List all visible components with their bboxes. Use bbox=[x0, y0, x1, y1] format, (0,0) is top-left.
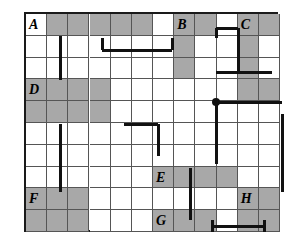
grid-cell bbox=[132, 101, 153, 123]
grid-cell bbox=[238, 58, 259, 80]
junction-dot bbox=[212, 98, 220, 106]
route-b-zigzag-segment bbox=[216, 27, 238, 30]
route-b-zigzag-segment bbox=[215, 28, 218, 38]
node-label-g: G bbox=[156, 214, 166, 228]
grid-cell bbox=[259, 123, 280, 145]
grid-cell bbox=[259, 14, 280, 36]
grid-cell bbox=[174, 167, 195, 189]
grid-cell bbox=[111, 36, 132, 58]
grid-cell bbox=[68, 101, 89, 123]
grid-cell bbox=[153, 14, 174, 36]
grid-cell bbox=[132, 123, 153, 145]
grid-cell bbox=[238, 101, 259, 123]
grid-cell bbox=[68, 123, 89, 145]
grid-cell bbox=[90, 14, 111, 36]
node-label-h: H bbox=[241, 192, 252, 206]
grid-cell bbox=[68, 210, 89, 232]
grid-cell bbox=[195, 36, 216, 58]
grid-cell bbox=[153, 58, 174, 80]
grid-cell bbox=[111, 188, 132, 210]
grid-routing-diagram: ABCDEFGH bbox=[0, 0, 295, 249]
route-b-zigzag-segment bbox=[216, 71, 272, 74]
grid-cell bbox=[111, 123, 132, 145]
grid-cell bbox=[259, 167, 280, 189]
route-left-vertical-upper-segment bbox=[59, 36, 62, 80]
route-g-horizontal-segment bbox=[263, 220, 266, 232]
grid-cell bbox=[90, 167, 111, 189]
node-label-e: E bbox=[156, 171, 165, 185]
grid-cell bbox=[111, 79, 132, 101]
node-label-f: F bbox=[29, 192, 38, 206]
grid-cell bbox=[111, 101, 132, 123]
grid-cell bbox=[238, 167, 259, 189]
grid-cell bbox=[217, 36, 238, 58]
node-label-d: D bbox=[29, 83, 39, 97]
grid-cell bbox=[195, 188, 216, 210]
grid-cell bbox=[153, 79, 174, 101]
grid-cell bbox=[111, 58, 132, 80]
route-g-horizontal-segment bbox=[211, 220, 214, 232]
grid-board: ABCDEFGH bbox=[24, 12, 278, 232]
grid-cell bbox=[26, 101, 47, 123]
grid-cell bbox=[259, 36, 280, 58]
grid-cell bbox=[217, 210, 238, 232]
grid-cell bbox=[68, 167, 89, 189]
grid-cell bbox=[174, 36, 195, 58]
grid-cell bbox=[259, 101, 280, 123]
grid-cell bbox=[217, 145, 238, 167]
grid-cell bbox=[195, 123, 216, 145]
route-top-left-hook-segment bbox=[102, 49, 172, 52]
grid-cell bbox=[195, 167, 216, 189]
route-g-horizontal-segment bbox=[212, 225, 264, 228]
grid-cell bbox=[217, 101, 238, 123]
grid-cell bbox=[26, 123, 47, 145]
route-right-vertical-segment bbox=[281, 114, 284, 192]
grid-cell bbox=[68, 14, 89, 36]
grid-cell bbox=[132, 188, 153, 210]
grid-cell bbox=[217, 123, 238, 145]
grid-cell bbox=[174, 58, 195, 80]
grid-cell bbox=[47, 14, 68, 36]
grid-cell bbox=[238, 210, 259, 232]
grid-cell bbox=[259, 58, 280, 80]
grid-cell bbox=[217, 167, 238, 189]
grid-cell bbox=[111, 14, 132, 36]
grid-cell bbox=[217, 79, 238, 101]
grid-cell bbox=[174, 123, 195, 145]
node-label-a: A bbox=[29, 18, 38, 32]
grid-cell bbox=[26, 210, 47, 232]
grid-cell bbox=[68, 58, 89, 80]
route-d-hook-segment bbox=[157, 124, 160, 156]
grid-cell bbox=[26, 58, 47, 80]
grid-cell bbox=[47, 101, 68, 123]
route-b-zigzag-segment bbox=[237, 28, 240, 72]
grid-cell bbox=[90, 79, 111, 101]
grid-cell bbox=[111, 145, 132, 167]
grid-cell bbox=[26, 36, 47, 58]
grid-cell bbox=[238, 145, 259, 167]
grid-cell bbox=[26, 167, 47, 189]
grid-cell bbox=[174, 101, 195, 123]
grid-cell bbox=[26, 145, 47, 167]
grid-cell bbox=[90, 58, 111, 80]
grid-cell bbox=[47, 79, 68, 101]
route-d-hook-segment bbox=[124, 123, 158, 126]
grid-cell bbox=[132, 14, 153, 36]
grid-cell bbox=[238, 123, 259, 145]
route-left-vertical-lower-segment bbox=[59, 124, 62, 192]
grid-cell bbox=[153, 101, 174, 123]
node-label-c: C bbox=[241, 18, 250, 32]
grid-cell bbox=[68, 36, 89, 58]
route-top-left-hook-segment bbox=[171, 38, 174, 50]
grid-cell bbox=[217, 14, 238, 36]
node-label-b: B bbox=[177, 18, 186, 32]
grid-cell bbox=[90, 101, 111, 123]
grid-cell bbox=[68, 79, 89, 101]
grid-cell bbox=[132, 36, 153, 58]
route-e-vertical-segment bbox=[189, 168, 192, 220]
grid-cell bbox=[47, 210, 68, 232]
route-node-branch-segment bbox=[216, 101, 282, 104]
grid-cell bbox=[111, 210, 132, 232]
grid-cell bbox=[132, 145, 153, 167]
grid-cell bbox=[238, 36, 259, 58]
